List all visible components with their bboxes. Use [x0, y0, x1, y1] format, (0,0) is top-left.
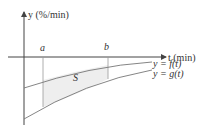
region-s-label: S — [73, 72, 78, 83]
marker-a-label: a — [40, 42, 45, 53]
curve-g-label: y = g(t) — [152, 68, 184, 80]
area-between-curves-diagram: y (%/min) t (min) a b S y = f(t) y = g(t… — [0, 0, 210, 130]
marker-b-label: b — [104, 41, 109, 52]
y-axis-label: y (%/min) — [28, 9, 69, 21]
